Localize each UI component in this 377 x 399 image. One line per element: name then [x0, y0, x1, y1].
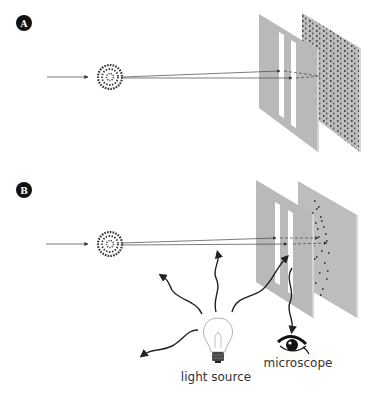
badge-b: B	[16, 182, 32, 198]
badge-a-label: A	[20, 19, 29, 29]
slit-1-a	[279, 32, 284, 118]
panel-a: A	[16, 13, 360, 152]
photon-arrow-up	[215, 254, 218, 312]
eye-icon	[278, 336, 309, 354]
double-slit-diagram: A	[0, 0, 377, 399]
light-source-label: light source	[181, 370, 251, 384]
slit-2-b	[288, 210, 293, 295]
photon-arrow-left	[143, 330, 198, 355]
photon-arrow-upleft	[162, 276, 202, 314]
panel-b: B	[16, 180, 357, 384]
molecule-icon-b	[98, 232, 122, 256]
microscope-label: microscope	[264, 356, 333, 370]
badge-a: A	[16, 15, 32, 31]
slit-2-a	[291, 40, 296, 128]
light-bulb-icon	[204, 318, 233, 363]
badge-b-label: B	[20, 186, 28, 196]
molecule-icon-a	[98, 65, 122, 89]
